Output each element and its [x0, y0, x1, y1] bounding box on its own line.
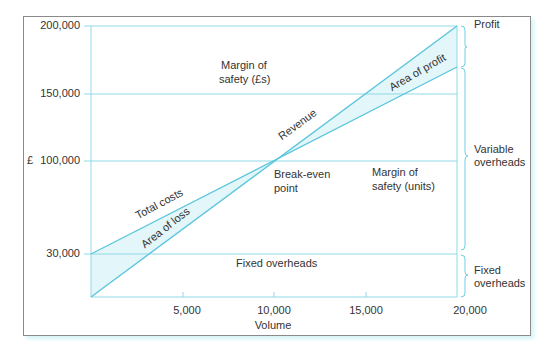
margin-safety-units-label-2: safety (units) — [372, 180, 435, 193]
fixed-overheads-bracket-label-2: overheads — [474, 277, 525, 290]
fixed-overheads-bracket-label-1: Fixed — [474, 264, 501, 277]
margin-safety-money-label-2: safety (£s) — [219, 73, 270, 86]
x-axis-label: Volume — [248, 319, 298, 332]
y-tick-200000: 200,000 — [10, 19, 80, 32]
margin-safety-units-label-1: Margin of — [372, 166, 418, 179]
fixed-overheads-brace — [461, 255, 468, 297]
margin-safety-money-label-1: Margin of — [221, 59, 267, 72]
y-axis-label: £ — [27, 154, 33, 167]
y-tick-150000: 150,000 — [10, 87, 80, 100]
x-tick-10000: 10,000 — [249, 304, 299, 317]
variable-overheads-brace — [461, 68, 468, 250]
x-tick-5000: 5,000 — [162, 304, 212, 317]
profit-brace — [461, 26, 467, 67]
x-tick-20000: 20,000 — [445, 304, 495, 317]
x-tick-15000: 15,000 — [341, 304, 391, 317]
fixed-overheads-label: Fixed overheads — [236, 257, 317, 270]
variable-overheads-label-1: Variable — [474, 143, 514, 156]
y-tick-100000: 100,000 — [10, 154, 80, 167]
y-tick-30000: 30,000 — [10, 247, 80, 260]
break-even-label-1: Break-even — [274, 168, 330, 181]
break-even-label-2: point — [274, 182, 298, 195]
variable-overheads-label-2: overheads — [474, 156, 525, 169]
profit-bracket-label: Profit — [474, 18, 500, 31]
